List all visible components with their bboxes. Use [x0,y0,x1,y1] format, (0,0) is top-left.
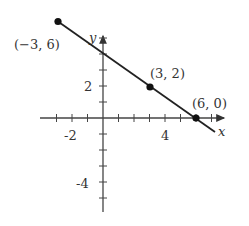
point-label: (3, 2) [150,66,185,81]
point-label: (−3, 6) [14,37,60,52]
point-6-0 [192,114,199,121]
y-tick-label: 2 [84,79,92,94]
point-3-2 [146,83,153,90]
data-line [58,22,215,133]
coordinate-plane: -2 4 2 -4 x y (−3, 6) (3, 2) (6, 0) [0,0,249,226]
point-label: (6, 0) [192,96,227,111]
x-axis-label: x [218,124,226,139]
y-tick-label: -4 [76,176,89,191]
x-tick-label: -2 [64,128,77,143]
x-tick-label: 4 [161,128,169,143]
point-neg3-6 [54,18,61,25]
